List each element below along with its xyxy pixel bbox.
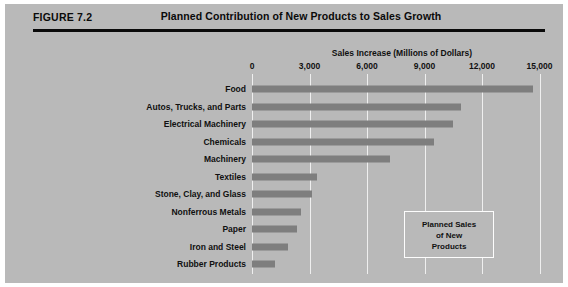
x-tick-label: 0 (250, 61, 255, 71)
category-label: Rubber Products (66, 259, 246, 269)
bar (252, 103, 461, 110)
bar (252, 226, 297, 233)
bar (252, 121, 453, 128)
bar (252, 208, 301, 215)
x-tick-label: 9,000 (414, 61, 435, 71)
legend-line-3: Products (405, 241, 493, 252)
legend-line-2: of New (405, 230, 493, 241)
category-label: Chemicals (66, 137, 246, 147)
category-label: Iron and Steel (66, 242, 246, 252)
legend-text: Planned Sales of New Products (405, 219, 493, 252)
x-tick-label: 12,000 (469, 61, 495, 71)
bar (252, 138, 434, 145)
bar (252, 156, 390, 163)
legend-line-1: Planned Sales (405, 219, 493, 230)
gridline-15000 (540, 74, 541, 274)
x-tick-label: 3,000 (299, 61, 320, 71)
category-label: Paper (66, 224, 246, 234)
bar (252, 191, 312, 198)
x-tick-label: 15,000 (527, 61, 553, 71)
bar (252, 173, 317, 180)
category-label: Electrical Machinery (66, 119, 246, 129)
legend-box: Planned Sales of New Products (404, 211, 494, 258)
bar (252, 243, 288, 250)
figure-panel: FIGURE 7.2 Planned Contribution of New P… (5, 4, 563, 283)
category-label: Machinery (66, 154, 246, 164)
category-label: Textiles (66, 172, 246, 182)
category-label: Autos, Trucks, and Parts (66, 102, 246, 112)
bar (252, 86, 533, 93)
category-label: Stone, Clay, and Glass (66, 189, 246, 199)
x-tick-label: 6,000 (356, 61, 377, 71)
category-label: Food (66, 84, 246, 94)
category-label: Nonferrous Metals (66, 207, 246, 217)
bar (252, 261, 275, 268)
